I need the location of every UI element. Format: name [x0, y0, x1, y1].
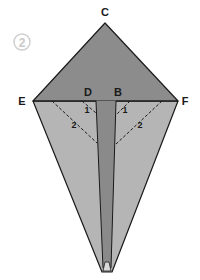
label-e: E [18, 95, 25, 107]
label-f: F [182, 95, 189, 107]
fold-number-right-1: 1 [122, 105, 127, 115]
fold-number-left-2: 2 [71, 120, 76, 130]
origami-diagram: 2 C E F D B 1 2 1 2 [0, 0, 200, 280]
fold-number-right-2: 2 [137, 120, 142, 130]
label-b: B [114, 86, 122, 98]
step-number: 2 [19, 36, 26, 50]
label-d: D [84, 86, 92, 98]
label-c: C [101, 6, 109, 18]
step-indicator: 2 [14, 34, 30, 50]
top-flap [33, 23, 178, 101]
fold-number-left-1: 1 [84, 105, 89, 115]
